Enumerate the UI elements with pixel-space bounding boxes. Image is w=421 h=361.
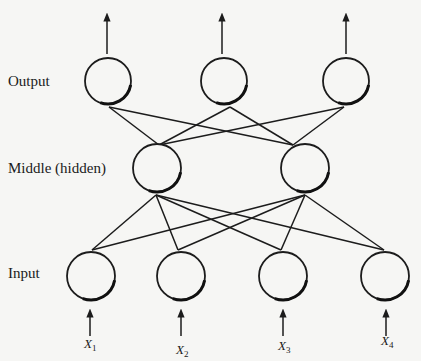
input-label-x3: X3 <box>277 338 291 355</box>
layer-labels: Output Middle (hidden) Input <box>8 73 106 281</box>
input-label-x2: X2 <box>175 342 188 359</box>
neuron-nodes <box>67 58 409 300</box>
middle-layer-label: Middle (hidden) <box>8 160 106 177</box>
edge <box>156 195 384 250</box>
neural-network-diagram: Output Middle (hidden) Input X1 X2 X3 X4 <box>0 0 421 361</box>
input-label-x1: X1 <box>83 336 96 353</box>
edge <box>109 107 293 145</box>
input-label-x4: X4 <box>380 333 394 350</box>
edge <box>305 195 384 250</box>
edge <box>159 107 344 145</box>
edge <box>159 107 230 145</box>
output-node <box>323 58 369 104</box>
middle-node <box>133 144 181 192</box>
input-node <box>157 252 205 300</box>
edge <box>230 107 293 145</box>
input-node <box>361 252 409 300</box>
middle-node <box>281 144 329 192</box>
output-node <box>85 58 131 104</box>
input-variable-labels: X1 X2 X3 X4 <box>83 333 394 359</box>
input-node <box>259 252 307 300</box>
input-layer-label: Input <box>8 265 40 281</box>
output-layer-label: Output <box>8 73 51 89</box>
output-node <box>201 58 247 104</box>
input-node <box>67 252 115 300</box>
